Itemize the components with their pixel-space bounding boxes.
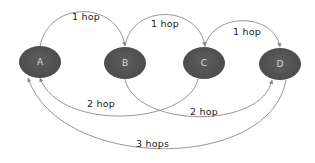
edge-a-c [40,78,198,116]
label-edge-a-d: 3 hops [136,138,169,149]
node-b-label: B [122,58,128,68]
label-edge-c-d: 1 hop [233,26,261,37]
node-c: C [183,47,225,79]
label-edge-b-c: 1 hop [151,18,179,29]
node-d: D [259,48,301,80]
node-a: A [19,46,61,78]
node-d-label: D [277,59,284,69]
node-c-label: C [201,58,207,68]
label-edge-b-d: 2 hop [190,106,218,117]
hop-diagram: A B C D 1 hop 1 hop 1 hop 2 hop 2 hop 3 … [0,0,315,163]
node-a-label: A [37,57,43,67]
label-edge-a-b: 1 hop [72,11,100,22]
node-b: B [104,47,146,79]
label-edge-a-c: 2 hop [87,98,115,109]
